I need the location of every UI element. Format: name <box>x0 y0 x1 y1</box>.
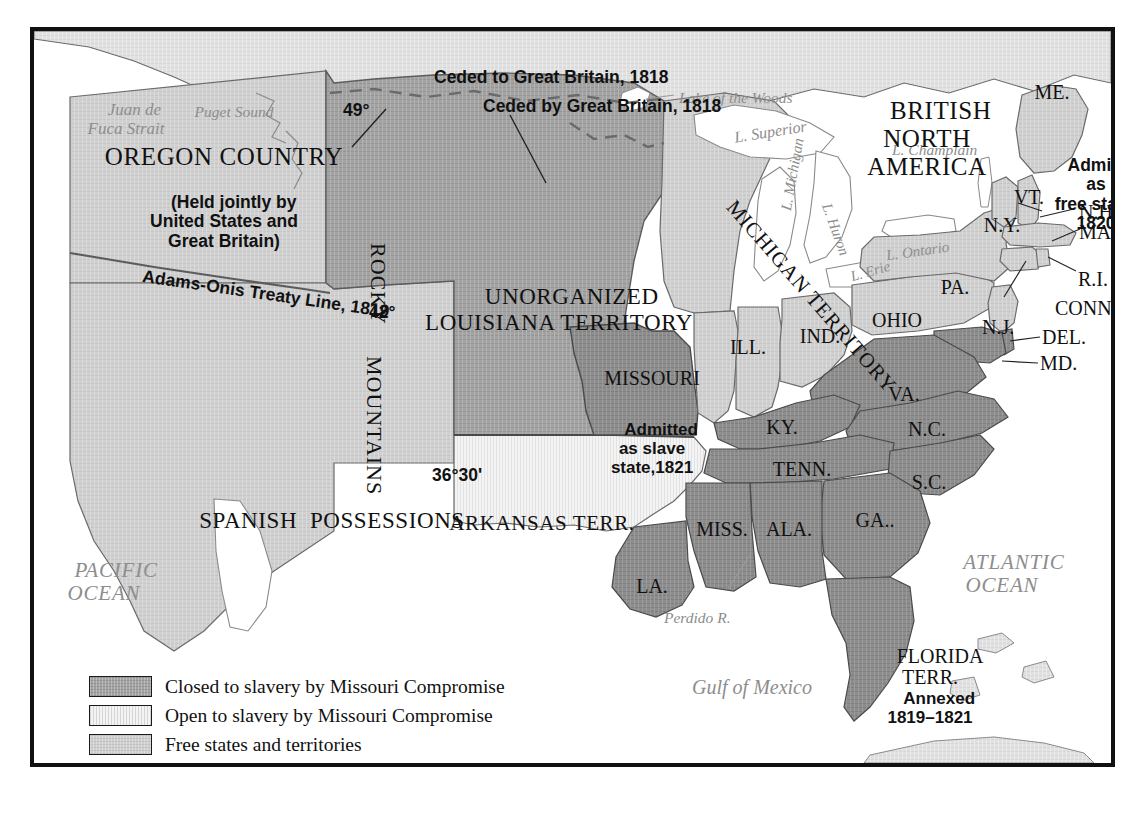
label-state-rhode-island: R.I. <box>1078 268 1108 290</box>
label-state-mississippi: MISS. <box>696 518 748 540</box>
legend-label-open: Open to slavery by Missouri Compromise <box>165 705 493 727</box>
annotation-36-30: 36°30' <box>432 466 482 486</box>
label-state-new-york: N.Y. <box>984 214 1020 236</box>
label-state-georgia: GA.. <box>856 509 895 531</box>
legend-swatch-open <box>89 705 152 726</box>
label-state-virginia: VA. <box>888 383 919 405</box>
label-state-kentucky: KY. <box>766 416 797 438</box>
label-oregon-country-note: (Held jointly by United States and Great… <box>150 173 298 251</box>
legend: Closed to slavery by Missouri Compromise… <box>89 672 505 767</box>
label-state-missouri: MISSOURI <box>604 367 700 389</box>
label-unorganized-louisiana-territory: UNORGANIZED LOUISIANA TERRITORY <box>425 258 693 335</box>
annotation-ceded-to-great-britain: Ceded to Great Britain, 1818 <box>434 68 668 88</box>
legend-label-slave: Slave states and territories <box>165 763 370 768</box>
legend-label-closed: Closed to slavery by Missouri Compromise <box>165 676 505 698</box>
label-perdido-river: Perdido R. <box>664 609 731 626</box>
region-rhode-island <box>1036 249 1050 267</box>
label-state-connecticut: CONN. <box>1055 297 1115 319</box>
legend-label-free: Free states and territories <box>165 734 362 756</box>
legend-item-open: Open to slavery by Missouri Compromise <box>89 701 505 730</box>
label-spanish-possessions: SPANISH POSSESSIONS <box>199 508 465 534</box>
label-gulf-of-mexico: Gulf of Mexico <box>692 676 812 698</box>
legend-item-closed: Closed to slavery by Missouri Compromise <box>89 672 505 701</box>
label-state-south-carolina: S.C. <box>912 471 946 493</box>
label-puget-sound: Puget Sound <box>195 103 274 120</box>
map-frame: Juan de Fuca Strait Puget Sound Lake of … <box>30 27 1115 767</box>
label-state-louisiana: LA. <box>636 575 668 597</box>
label-state-new-jersey: N.J. <box>982 316 1014 338</box>
label-arkansas-territory: ARKANSAS TERR. <box>449 512 634 536</box>
legend-swatch-closed <box>89 676 152 697</box>
label-state-maryland: MD. <box>1040 352 1077 374</box>
annotation-49-degrees: 49° <box>343 101 369 121</box>
label-juan-de-fuca-strait: Juan de Fuca Strait <box>88 81 165 138</box>
label-state-illinois: ILL. <box>730 336 766 358</box>
label-state-indiana: IND. <box>800 325 841 347</box>
label-pacific-ocean: PACIFIC OCEAN <box>50 535 158 606</box>
label-state-florida: FLORIDA TERR. <box>877 626 984 687</box>
map-screenshot: Juan de Fuca Strait Puget Sound Lake of … <box>0 0 1144 814</box>
label-state-delaware: DEL. <box>1042 326 1086 348</box>
label-state-massachusetts: MASS. <box>1079 221 1115 243</box>
legend-item-slave: Slave states and territories <box>89 759 505 767</box>
label-oregon-country: OREGON COUNTRY <box>105 143 343 171</box>
label-atlantic-ocean: ATLANTIC OCEAN <box>939 527 1064 598</box>
label-state-vermont: VT. <box>1014 186 1044 208</box>
legend-item-free: Free states and territories <box>89 730 505 759</box>
label-state-alabama: ALA. <box>766 518 812 540</box>
label-state-north-carolina: N.C. <box>908 418 946 440</box>
legend-swatch-slave <box>89 763 152 767</box>
annotation-missouri-admitted: Admitted as slave state,1821 <box>606 401 698 477</box>
label-mountains: MOUNTAINS <box>361 356 386 495</box>
label-british-north-america: BRITISH NORTH AMERICA <box>835 69 1019 181</box>
label-state-tennessee: TENN. <box>773 458 831 480</box>
label-state-maine: ME. <box>1035 81 1070 103</box>
label-state-pennsylvania: PA. <box>941 276 970 298</box>
annotation-ceded-by-great-britain: Ceded by Great Britain, 1818 <box>483 97 721 117</box>
legend-swatch-free <box>89 734 152 755</box>
label-state-ohio: OHIO <box>872 309 922 331</box>
